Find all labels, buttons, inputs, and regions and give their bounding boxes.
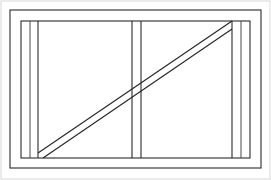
- diagonal-brace-lower-edge: [43, 29, 232, 158]
- diagonal-brace-upper-edge: [38, 21, 232, 153]
- braced-frame-drawing: [0, 0, 271, 180]
- diagonal-brace-group: [38, 21, 232, 158]
- outer-frame-rect: [10, 10, 261, 168]
- right-stud-group: [232, 21, 241, 158]
- page-border: [1, 1, 270, 179]
- inner-frame-rect: [21, 21, 250, 158]
- middle-stud-group: [132, 21, 141, 158]
- inner-frame-group: [21, 21, 250, 158]
- figure-canvas: Braced rectangular frame elevation: [0, 0, 271, 180]
- left-stud-group: [30, 21, 38, 158]
- outer-frame-group: [10, 10, 261, 168]
